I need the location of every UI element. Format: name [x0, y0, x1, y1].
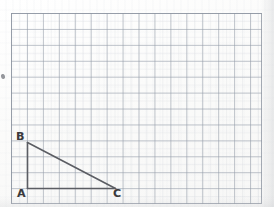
- vertex-label-b: B: [16, 131, 25, 142]
- grid-border: [11, 13, 262, 204]
- vertex-label-a: A: [17, 188, 26, 199]
- vertex-label-c: C: [113, 188, 121, 199]
- pencil-smudge-mark: [0, 74, 5, 80]
- graph-paper-sheet: B A C: [0, 0, 274, 207]
- grid-area: [11, 13, 262, 204]
